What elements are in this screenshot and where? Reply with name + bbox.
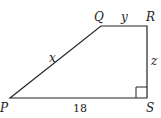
vertex-label-s: S — [146, 101, 154, 115]
side-label-18: 18 — [73, 102, 87, 115]
right-angle-marker — [136, 87, 147, 98]
vertex-label-r: R — [145, 10, 155, 24]
side-label-y: y — [120, 10, 128, 24]
side-label-z: z — [150, 54, 158, 68]
trapezoid-pqrs — [10, 26, 147, 98]
vertex-label-p: P — [0, 101, 9, 115]
side-label-x: x — [49, 51, 56, 65]
trapezoid-diagram: Q y R x z 18 P S — [0, 0, 161, 118]
vertex-label-q: Q — [94, 10, 104, 24]
